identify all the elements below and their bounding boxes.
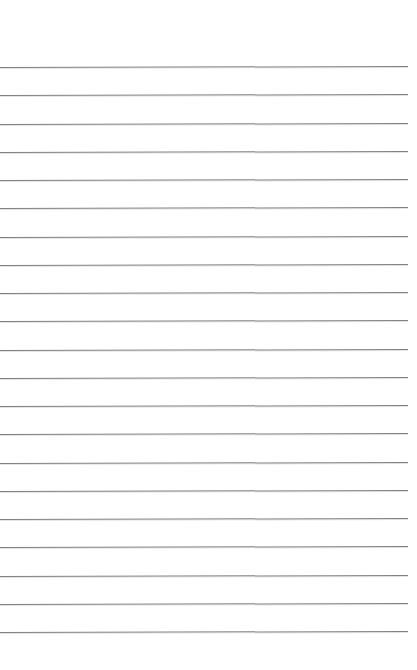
ruled-line [0, 94, 408, 96]
ruled-line [0, 377, 408, 379]
ruled-line [0, 292, 408, 294]
lined-paper-page [0, 0, 417, 670]
ruled-line [0, 575, 408, 577]
ruled-line [0, 179, 408, 181]
ruled-line [0, 66, 408, 68]
ruled-lines-layer [0, 0, 417, 670]
ruled-line [0, 320, 408, 322]
ruled-line [0, 207, 408, 209]
ruled-line [0, 603, 408, 605]
ruled-line [0, 433, 408, 435]
bottom-margin-area [0, 632, 417, 670]
ruled-line [0, 123, 408, 125]
ruled-line [0, 405, 408, 407]
ruled-line [0, 518, 408, 520]
ruled-line [0, 264, 408, 266]
ruled-line [0, 546, 408, 548]
ruled-line [0, 490, 408, 492]
ruled-line [0, 349, 408, 351]
ruled-line [0, 462, 408, 464]
ruled-line [0, 151, 408, 153]
ruled-line [0, 236, 408, 238]
